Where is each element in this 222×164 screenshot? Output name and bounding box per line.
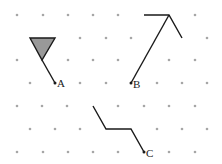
grid-dot xyxy=(16,151,19,154)
grid-dot xyxy=(41,105,44,108)
grid-dot xyxy=(67,151,70,154)
label-b: B xyxy=(133,78,140,90)
grid-dot xyxy=(29,82,32,85)
grid-dot xyxy=(194,105,197,108)
grid-dot xyxy=(67,14,70,17)
shaded-triangle xyxy=(30,38,55,60)
grid-dot xyxy=(117,59,120,62)
grid-dot xyxy=(206,82,209,85)
grid-dot xyxy=(54,128,57,131)
path-b-long xyxy=(131,15,169,83)
figure-a: A xyxy=(30,38,65,89)
label-a: A xyxy=(57,77,65,89)
grid-dot xyxy=(168,59,171,62)
grid-dot xyxy=(181,82,184,85)
figure-b: B xyxy=(130,15,183,90)
grid-dot xyxy=(168,105,171,108)
grid-dot xyxy=(117,105,120,108)
grid-dot xyxy=(42,151,45,154)
line-to-a xyxy=(42,60,55,83)
grid-dot xyxy=(206,128,209,131)
grid-dot xyxy=(42,14,45,17)
grid-dot xyxy=(194,151,197,154)
isometric-dot-grid-diagram: A B C xyxy=(0,0,222,164)
grid-dot xyxy=(181,128,184,131)
grid-dot xyxy=(29,128,32,131)
grid-dot xyxy=(156,82,159,85)
grid-dot xyxy=(92,59,95,62)
grid-dot xyxy=(16,105,19,108)
grid-dot xyxy=(16,59,19,62)
grid-dot xyxy=(16,14,19,17)
grid-dot xyxy=(92,14,95,17)
grid-dot xyxy=(66,105,69,108)
grid-dot xyxy=(79,128,82,131)
grid-dot xyxy=(105,82,108,85)
grid-dot xyxy=(156,128,159,131)
grid-dot xyxy=(79,37,82,40)
grid-dot xyxy=(206,37,209,40)
grid-dot xyxy=(67,59,70,62)
grid-dot xyxy=(194,14,197,17)
grid-dot xyxy=(143,105,146,108)
label-c: C xyxy=(146,147,153,159)
figure-c: C xyxy=(93,106,153,159)
grid-dot xyxy=(130,37,133,40)
grid-dot xyxy=(105,37,108,40)
path-c xyxy=(93,106,144,152)
grid-dot xyxy=(168,151,171,154)
grid-dot xyxy=(194,59,197,62)
grid-dot xyxy=(117,151,120,154)
grid-dot xyxy=(79,82,82,85)
grid-dot xyxy=(92,151,95,154)
grid-dot xyxy=(117,14,120,17)
